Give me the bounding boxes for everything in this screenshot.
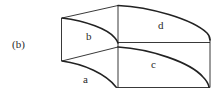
curve-a	[62, 61, 116, 87]
curved-block-diagram: (b) b a d c	[0, 0, 221, 94]
panel-label: (b)	[12, 38, 25, 51]
lower-slant-edge	[62, 47, 118, 61]
top-slant-edge	[62, 6, 118, 19]
face-label-a: a	[83, 73, 88, 85]
curve-c	[118, 47, 209, 87]
face-label-c: c	[151, 58, 156, 70]
face-label-b: b	[86, 30, 92, 42]
face-label-d: d	[158, 19, 164, 31]
curve-d	[118, 6, 210, 41]
diagram-figure: (b) b a d c	[0, 0, 221, 94]
